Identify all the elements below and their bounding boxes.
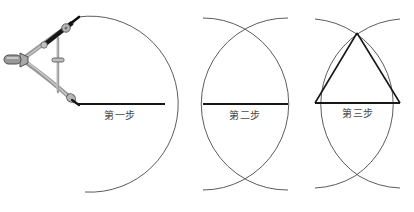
step-caption-2: 第二步 xyxy=(221,110,269,122)
compass-pencil-clamp-screw xyxy=(65,27,68,30)
compass-handle xyxy=(4,55,21,64)
compass-pencil-tip-icon xyxy=(70,17,79,24)
panel-2-arc-right-center-tail-top xyxy=(247,18,288,28)
panel-3-arc-right-center xyxy=(321,33,359,176)
panel-3-triangle-left-side xyxy=(315,33,357,103)
panel-2-arc-right-center-tail-bottom xyxy=(247,180,288,190)
step-caption-1: 第一步 xyxy=(96,110,144,122)
compass-upper-collar xyxy=(41,42,47,48)
compass-tool xyxy=(4,17,79,105)
panel-3-arc-right-center-tail-bottom xyxy=(359,176,400,188)
panel-3-arc-left-center-tail-top xyxy=(315,19,355,33)
panel-1-group xyxy=(4,16,178,192)
figure-canvas: 第一步 第二步 第三步 xyxy=(0,0,414,212)
panel-3-arc-right-center-tail-top xyxy=(359,19,400,33)
panel-3-group xyxy=(315,19,400,188)
step-caption-3: 第三步 xyxy=(334,108,382,120)
panel-2-group xyxy=(201,18,289,190)
panel-2-arc-left-center-tail-bottom xyxy=(203,180,243,190)
panel-3-arc-left-center xyxy=(355,33,393,176)
panel-3-triangle-right-side xyxy=(357,33,400,103)
compass-adjust-nut xyxy=(52,58,64,62)
panel-3-arc-left-center-tail-bottom xyxy=(315,176,355,188)
panel-2-arc-left-center-tail-top xyxy=(203,18,243,28)
construction-diagram xyxy=(0,0,414,212)
